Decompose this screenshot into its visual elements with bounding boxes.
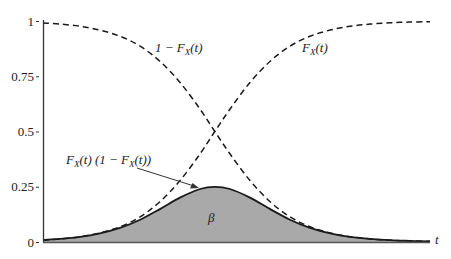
y-tick-label: 0 (28, 235, 35, 250)
arrow-to-product-curve (137, 168, 199, 189)
y-tick-label: 0.25 (11, 179, 34, 194)
y-tick-label: 0.75 (11, 69, 34, 84)
label-product: FX(t) (1 − FX(t)) (65, 152, 151, 169)
beta-label: β (207, 210, 215, 225)
label-one-minus-F: 1 − FX(t) (155, 40, 203, 57)
chart: 10.750.50.250 t 1 − FX(t) FX(t) FX(t) (1… (0, 0, 451, 259)
label-F: FX(t) (301, 40, 328, 57)
y-tick-label: 1 (28, 14, 35, 29)
y-tick-label: 0.5 (18, 124, 34, 139)
y-ticks: 10.750.50.250 (11, 14, 39, 250)
x-axis-label: t (435, 232, 439, 247)
